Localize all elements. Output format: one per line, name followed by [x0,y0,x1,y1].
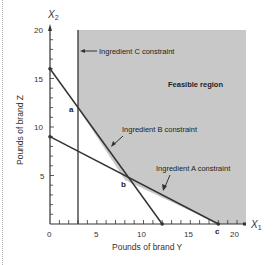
linear-programming-chart: 0 5 10 15 20 5 10 15 20 X2 X1 Pounds of … [0,0,276,265]
x-tick-15: 15 [184,230,193,239]
feasible-region-label: Feasible region [168,80,223,89]
point-c-marker [217,222,221,226]
x-axis-title: Pounds of brand Y [112,242,183,252]
point-c-label: c [215,227,220,236]
ingredient-b-label: Ingredient B constraint [122,125,198,134]
point-b-label: b [121,180,126,189]
y-tick-5: 5 [40,172,45,181]
point-y-intercept-b [48,67,52,71]
x-axis-end-marker-icon [243,223,246,226]
ingredient-c-label: Ingredient C constraint [99,47,175,56]
point-x-intercept-b [160,222,164,226]
y-tick-20: 20 [34,26,43,35]
y-tick-15: 15 [34,75,43,84]
y-tick-10: 10 [34,123,43,132]
x-tick-5: 5 [94,230,99,239]
x-tick-0: 0 [47,230,52,239]
ingredient-a-label: Ingredient A constraint [156,164,231,173]
x-tick-20: 20 [230,230,239,239]
point-y-intercept-a [48,135,52,139]
x-axis-name: X1 [250,219,262,231]
y-axis-name: X2 [47,9,59,21]
y-axis-title: Pounds of brand Z [15,95,25,165]
point-a-label: a [69,105,74,114]
x-tick-10: 10 [137,230,146,239]
y-axis-arrow-icon [48,24,52,31]
